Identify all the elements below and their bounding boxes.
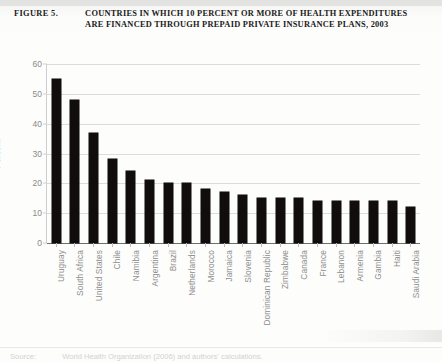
y-tick-label: 40 [33, 119, 42, 129]
bar-slot [383, 64, 402, 243]
source-label: Source: [10, 352, 36, 361]
bar [388, 201, 397, 243]
x-tick-mark [317, 243, 318, 247]
x-label-slot: Argentina [140, 248, 159, 348]
bar [369, 201, 378, 243]
figure-container: FIGURE 5. COUNTRIES IN WHICH 10 PERCENT … [0, 0, 442, 362]
bar-slot [234, 64, 253, 243]
bar [238, 195, 247, 243]
bar-slot [401, 64, 420, 243]
y-tick-label: 60 [33, 59, 42, 69]
bar [164, 183, 173, 243]
bar-slot [196, 64, 215, 243]
x-tick-mark [130, 243, 131, 247]
bar-slot [66, 64, 85, 243]
x-label-slot: Zimbabwe [271, 248, 290, 348]
x-tick-mark [336, 243, 337, 247]
bar [70, 100, 79, 243]
bar [406, 207, 415, 243]
x-tick-mark [186, 243, 187, 247]
bar [350, 201, 359, 243]
y-axis: Percent 0102030405060 [0, 64, 47, 243]
bar-slot [364, 64, 383, 243]
x-tick-mark [168, 243, 169, 247]
bar-slot [346, 64, 365, 243]
y-tick-label: 50 [33, 89, 42, 99]
x-tick-mark [224, 243, 225, 247]
x-tick-mark [74, 243, 75, 247]
bar-slot [103, 64, 122, 243]
y-axis-title-wrap: Percent [5, 64, 19, 243]
x-tick-mark [112, 243, 113, 247]
source-text: World Health Organization (2006) and aut… [62, 352, 263, 361]
bar-slot [308, 64, 327, 243]
x-label-slot: Dominican Republic [252, 248, 271, 348]
x-tick-mark [242, 243, 243, 247]
x-label-slot: Brazil [159, 248, 178, 348]
x-tick-mark [93, 243, 94, 247]
bar-slot [84, 64, 103, 243]
bar-slot [140, 64, 159, 243]
y-axis-title: Percent [0, 139, 2, 168]
x-tick-label: Saudi Arabia [411, 250, 421, 298]
bar [276, 198, 285, 243]
bar [313, 201, 322, 243]
x-tick-mark [354, 243, 355, 247]
source-divider [0, 347, 442, 348]
x-label-slot: Netherlands [178, 248, 197, 348]
y-tick-label: 30 [33, 149, 42, 159]
bar [126, 171, 135, 243]
source-note: Source: World Health Organization (2006)… [10, 352, 263, 361]
x-label-slot: United States [84, 248, 103, 348]
x-tick-mark [56, 243, 57, 247]
y-tick-label: 20 [33, 178, 42, 188]
bar-slot [178, 64, 197, 243]
x-tick-mark [410, 243, 411, 247]
figure-title: COUNTRIES IN WHICH 10 PERCENT OR MORE OF… [85, 8, 415, 31]
x-label-slot: Chile [103, 248, 122, 348]
bar-slot [271, 64, 290, 243]
x-label-slot: Jamaica [215, 248, 234, 348]
x-tick-mark [149, 243, 150, 247]
bar [332, 201, 341, 243]
x-tick-mark [205, 243, 206, 247]
plot-area [47, 64, 420, 243]
figure-number-label: FIGURE 5. [14, 8, 58, 18]
y-tick-label: 0 [37, 238, 42, 248]
bar-slot [252, 64, 271, 243]
x-label-slot: Canada [290, 248, 309, 348]
page-top-band [0, 0, 442, 6]
bar [145, 180, 154, 243]
x-label-slot: Uruguay [47, 248, 66, 348]
bar [89, 133, 98, 243]
bar-slot [47, 64, 66, 243]
bar-slot [290, 64, 309, 243]
scan-edge-artifact [322, 330, 442, 342]
x-label-slot: Namibia [122, 248, 141, 348]
x-label-slot: Slovenia [234, 248, 253, 348]
x-label-slot: Morocco [196, 248, 215, 348]
bar [201, 189, 210, 243]
y-tick-label: 10 [33, 208, 42, 218]
x-tick-mark [280, 243, 281, 247]
figure-title-block: FIGURE 5. COUNTRIES IN WHICH 10 PERCENT … [14, 8, 434, 31]
bar-slot [122, 64, 141, 243]
bar-slot [327, 64, 346, 243]
bar-slot [215, 64, 234, 243]
bar [182, 183, 191, 243]
x-label-slot: South Africa [66, 248, 85, 348]
bar-series [47, 64, 420, 243]
x-tick-mark [261, 243, 262, 247]
bar [294, 198, 303, 243]
x-tick-mark [298, 243, 299, 247]
bar [257, 198, 266, 243]
x-tick-mark [392, 243, 393, 247]
bar [52, 79, 61, 243]
bar [108, 159, 117, 243]
bar-slot [159, 64, 178, 243]
bar [220, 192, 229, 243]
x-tick-mark [373, 243, 374, 247]
